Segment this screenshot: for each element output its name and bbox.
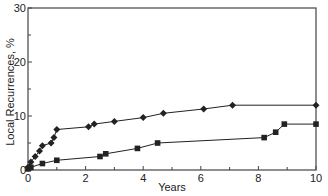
axis-ticks: 02468100102030 [14,2,322,184]
plot-frame [28,8,316,170]
diamond-marker [140,114,147,121]
square-marker [103,151,109,157]
diamond-marker [229,102,236,109]
x-tick-label: 6 [198,172,204,184]
square-marker [313,121,319,127]
square-marker [97,154,103,160]
series-line [28,105,316,167]
y-axis-title: Local Recurrences, % [4,38,16,146]
x-axis-title: Years [158,181,186,193]
plot-border [28,8,316,170]
square-marker [282,121,288,127]
diamond-marker [160,110,167,117]
square-marker [155,140,161,146]
diamond-marker [111,118,118,125]
series-line [28,124,316,169]
square-marker [54,157,60,163]
diamond-marker [85,123,92,130]
diamond-marker [53,126,60,133]
square-marker [28,165,34,171]
y-tick-label: 0 [20,164,26,176]
diamond-marker [200,105,207,112]
x-tick-label: 4 [140,172,146,184]
x-tick-label: 8 [255,172,261,184]
x-tick-label: 10 [310,172,322,184]
diamond-marker [91,121,98,128]
x-tick-label: 2 [83,172,89,184]
chart: 02468100102030 Years Local Recurrences, … [0,0,328,196]
square-marker [40,161,46,167]
diamond-marker [313,102,320,109]
data-series [25,102,320,172]
square-marker [261,135,267,141]
diamond-series [25,102,320,171]
y-tick-label: 30 [14,2,26,14]
square-marker [135,146,141,152]
square-marker [273,129,279,135]
